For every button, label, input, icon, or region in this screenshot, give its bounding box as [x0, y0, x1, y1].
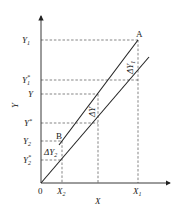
delta-Y1-label: ΔY1 [125, 61, 136, 75]
origin-label: 0 [38, 186, 43, 196]
delta-Y2-label: ΔY2 [43, 147, 57, 158]
point-A-label: A [136, 29, 143, 39]
delta-Y-label: ΔY [87, 106, 97, 118]
point-B-label: B [56, 131, 62, 141]
x-axis-title: X [94, 196, 101, 206]
label-Y1star: Y1* [22, 74, 30, 86]
label-Y: Y [28, 89, 34, 99]
label-X2: X2 [56, 186, 66, 197]
label-Y2: Y2 [23, 136, 31, 147]
equilibrium-line [41, 57, 149, 183]
diagram-canvas: Y1 Y1* Y Y* Y2 Y2* Y 0 X2 X1 X A B ΔY1 Δ… [0, 0, 180, 220]
operating-line [59, 40, 138, 145]
label-Ystar: Y* [24, 118, 32, 128]
label-X1: X1 [132, 186, 142, 197]
label-Y2star: Y2* [23, 154, 31, 166]
label-Y1: Y1 [22, 35, 30, 46]
y-axis-title: Y [10, 102, 20, 108]
